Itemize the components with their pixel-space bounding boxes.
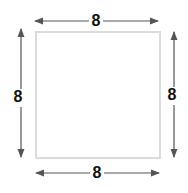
bottom-length-label: 8 bbox=[90, 165, 104, 181]
left-length-label: 8 bbox=[11, 89, 25, 107]
square bbox=[36, 32, 160, 158]
top-length-label: 8 bbox=[89, 13, 103, 29]
diagram-canvas: 8 8 8 8 bbox=[0, 0, 188, 193]
right-length-label: 8 bbox=[165, 87, 179, 105]
